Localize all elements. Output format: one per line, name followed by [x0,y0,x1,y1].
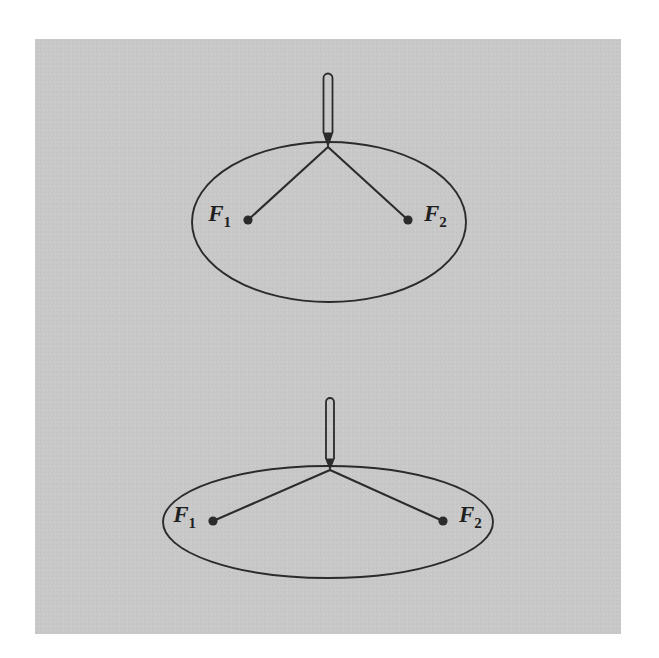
focus-point-2-dot [403,215,412,224]
focus-point-2-label-letter: F [423,201,439,226]
focus-point-1-label-letter: F [172,502,188,527]
focus-point-1-label-subscript: 1 [189,515,197,531]
focus-point-1-dot [208,516,217,525]
focus-point-2-label-subscript: 2 [474,515,482,531]
focus-point-1-label-subscript: 1 [224,214,232,230]
figure-root: F1 F2 F1 F2 [0,0,659,658]
focus-point-1-label-letter: F [207,201,223,226]
focus-point-2-label-letter: F [458,502,474,527]
gray-plate [35,39,621,634]
focus-point-1-dot [243,215,252,224]
focus-point-2-label-subscript: 2 [439,214,447,230]
focus-point-2-dot [438,516,447,525]
ellipse-construction-figure: F1 F2 F1 F2 [0,0,659,658]
